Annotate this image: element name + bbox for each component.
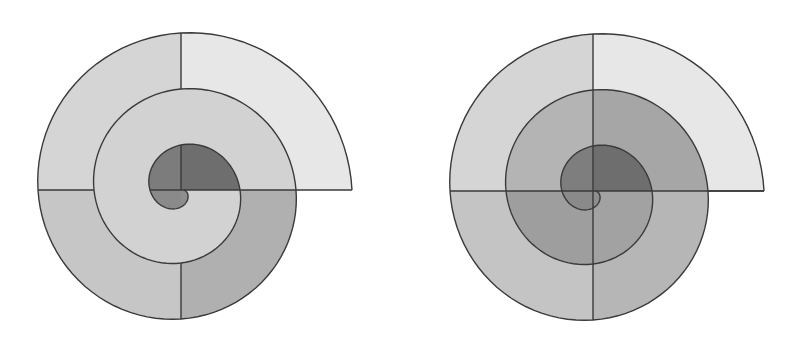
spiral-diagram-right bbox=[401, 0, 803, 344]
spiral-bands bbox=[450, 34, 764, 321]
spiral-figure-left bbox=[0, 0, 401, 344]
spiral-bands bbox=[38, 33, 352, 320]
spiral-figure-right bbox=[401, 0, 802, 344]
spiral-diagram-left bbox=[0, 0, 401, 344]
